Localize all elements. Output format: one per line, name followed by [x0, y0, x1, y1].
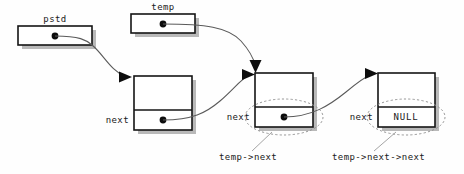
arrow-node-1-head [242, 69, 255, 80]
arrow-pstd-head [119, 72, 132, 83]
list-node-2[interactable]: next [227, 73, 323, 135]
pointer-box-temp[interactable]: temp [131, 2, 199, 37]
annotation-temp-next-label: temp->next [219, 152, 277, 162]
list-node-3-next-label: next [350, 112, 373, 122]
annotation-temp-next: temp->next [219, 132, 277, 162]
list-node-1-next-label: next [106, 115, 129, 125]
arrow-temp-head [250, 60, 262, 73]
pointer-box-pstd[interactable]: pstd [18, 14, 96, 49]
annotation-temp-next-leader [252, 132, 272, 151]
diagram-canvas: pstd temp next next [0, 0, 464, 174]
arrow-node-2-head [365, 68, 378, 79]
pointer-box-pstd-label: pstd [43, 14, 66, 24]
list-node-3[interactable]: next NULL [350, 73, 445, 135]
linked-list-diagram: pstd temp next next [0, 0, 464, 174]
null-value-label: NULL [394, 112, 419, 122]
annotation-temp-next-next-leader [374, 132, 396, 151]
annotation-temp-next-next-label: temp->next->next [332, 152, 425, 162]
annotation-temp-next-next: temp->next->next [332, 132, 425, 162]
list-node-1[interactable]: next [106, 76, 196, 134]
list-node-2-next-label: next [227, 112, 250, 122]
pointer-box-temp-label: temp [151, 2, 174, 12]
